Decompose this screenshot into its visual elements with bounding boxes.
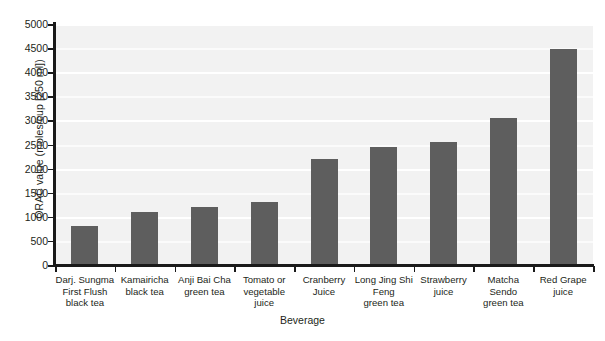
y-axis-tick-label: 1000 xyxy=(8,212,48,222)
x-axis-tick-label-line: Sendo xyxy=(470,286,536,298)
y-axis-tick-label: 3000 xyxy=(8,115,48,125)
x-axis-tick-label-line: black tea xyxy=(52,297,118,309)
y-axis-tick xyxy=(48,120,53,122)
x-axis-tick-label-line: black tea xyxy=(112,286,178,298)
x-axis-tick-label-line: Feng xyxy=(351,286,417,298)
x-axis-tick xyxy=(414,266,416,272)
y-axis-line xyxy=(53,22,56,267)
x-axis-tick xyxy=(115,266,117,272)
x-axis-tick-label-line: juice xyxy=(231,297,297,309)
x-axis-tick-label-line: Matcha xyxy=(470,274,536,286)
x-axis-tick-label-line: green tea xyxy=(470,297,536,309)
x-axis-tick-label-line: juice xyxy=(411,286,477,298)
y-axis-tick-label: 0 xyxy=(8,260,48,270)
x-axis-tick-label-line: Strawberry xyxy=(411,274,477,286)
x-axis-tick-label: Long Jing ShiFenggreen tea xyxy=(351,274,417,309)
bar xyxy=(550,49,577,265)
y-axis-tick xyxy=(48,24,53,26)
y-axis-tick-label: 500 xyxy=(8,236,48,246)
x-axis-tick-label: CranberryJuice xyxy=(291,274,357,297)
x-axis-tick-labels: Darj. SungmaFirst Flushblack teaKamairic… xyxy=(55,274,593,310)
bar xyxy=(430,142,457,265)
x-axis-tick xyxy=(354,266,356,272)
x-axis-tick-label: MatchaSendogreen tea xyxy=(470,274,536,309)
x-axis-tick-label-line: Juice xyxy=(291,286,357,298)
gridline xyxy=(55,96,593,98)
x-axis-tick-label: Strawberryjuice xyxy=(411,274,477,297)
x-axis-tick xyxy=(593,266,595,272)
y-axis-tick-label: 4000 xyxy=(8,67,48,77)
x-axis-tick-label: Kamairichablack tea xyxy=(112,274,178,297)
bar xyxy=(490,118,517,265)
y-axis-tick xyxy=(48,48,53,50)
y-axis-tick-labels: 0500100015002000250030003500400045005000 xyxy=(8,16,48,272)
x-axis-tick-label: Anji Bai Chagreen tea xyxy=(172,274,238,297)
gridline xyxy=(55,24,593,26)
y-axis-tick-label: 4500 xyxy=(8,43,48,53)
x-axis-tick-label-line: juice xyxy=(530,286,596,298)
x-axis-tick-label: Red Grapejuice xyxy=(530,274,596,297)
y-axis-tick xyxy=(48,72,53,74)
y-axis-tick-label: 5000 xyxy=(8,19,48,29)
x-axis-tick xyxy=(175,266,177,272)
y-axis-tick xyxy=(48,193,53,195)
y-axis-tick xyxy=(48,96,53,98)
y-axis-tick xyxy=(48,145,53,147)
x-axis-tick-label-line: Tomato or xyxy=(231,274,297,286)
x-axis-tick-label: Tomato orvegetablejuice xyxy=(231,274,297,309)
plot-area xyxy=(55,24,593,265)
bar xyxy=(311,159,338,265)
bar-chart: ORAC value (moles/cup [250 ml]) 05001000… xyxy=(0,0,605,341)
x-axis-tick xyxy=(473,266,475,272)
gridline xyxy=(55,48,593,50)
x-axis-tick-label-line: vegetable xyxy=(231,286,297,298)
x-axis-title: Beverage xyxy=(0,314,605,326)
x-axis-tick-label: Darj. SungmaFirst Flushblack tea xyxy=(52,274,118,309)
x-axis-tick xyxy=(55,266,57,272)
bar xyxy=(370,147,397,265)
x-axis-tick-label-line: Cranberry xyxy=(291,274,357,286)
bar xyxy=(131,212,158,265)
x-axis-tick-label-line: green tea xyxy=(172,286,238,298)
bar xyxy=(251,202,278,265)
y-axis-tick-label: 1500 xyxy=(8,188,48,198)
x-axis-line xyxy=(53,264,594,267)
x-axis-tick-label-line: Darj. Sungma xyxy=(52,274,118,286)
x-axis-tick-label-line: green tea xyxy=(351,297,417,309)
x-axis-tick xyxy=(294,266,296,272)
y-axis-tick xyxy=(48,217,53,219)
x-axis-tick-label-line: Red Grape xyxy=(530,274,596,286)
bar xyxy=(191,207,218,265)
x-axis-tick-label-line: First Flush xyxy=(52,286,118,298)
bar xyxy=(71,226,98,265)
y-axis-tick-label: 3500 xyxy=(8,91,48,101)
y-axis-tick xyxy=(48,265,53,267)
x-axis-tick-label-line: Long Jing Shi xyxy=(351,274,417,286)
y-axis-tick-label: 2000 xyxy=(8,164,48,174)
y-axis-tick-label: 2500 xyxy=(8,140,48,150)
gridline xyxy=(55,72,593,74)
x-axis-tick xyxy=(533,266,535,272)
y-axis-tick xyxy=(48,169,53,171)
x-axis-tick-label-line: Anji Bai Cha xyxy=(172,274,238,286)
x-axis-tick xyxy=(234,266,236,272)
x-axis-tick-label-line: Kamairicha xyxy=(112,274,178,286)
y-axis-tick xyxy=(48,241,53,243)
